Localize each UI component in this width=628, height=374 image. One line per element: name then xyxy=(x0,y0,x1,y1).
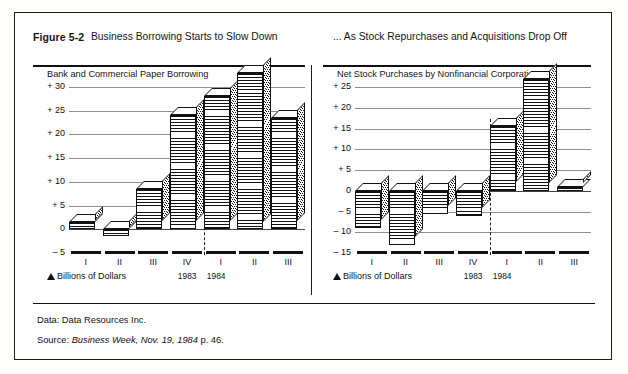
bar-front-face xyxy=(204,96,230,229)
year-label-1983: 1983 xyxy=(464,271,483,281)
y-axis-tick-label: – 5 xyxy=(319,206,351,216)
axis-units-label: Billions of Dollars xyxy=(343,271,412,281)
y-axis-tick-label: + 5 xyxy=(33,200,65,210)
bar xyxy=(523,71,557,191)
axis-units-label: Billions of Dollars xyxy=(57,271,126,281)
figure-page: Figure 5-2 Business Borrowing Starts to … xyxy=(0,0,628,374)
triangle-marker-icon xyxy=(47,273,55,280)
bar xyxy=(490,118,524,190)
bar xyxy=(170,107,204,229)
x-axis-tick-mark xyxy=(492,251,522,254)
bar-front-face xyxy=(237,73,263,230)
triangle-marker-icon xyxy=(333,273,341,280)
y-axis-tick-label: + 30 xyxy=(33,81,65,91)
bar xyxy=(136,181,170,229)
figure-frame: Figure 5-2 Business Borrowing Starts to … xyxy=(14,12,612,360)
x-axis-tick-mark xyxy=(273,251,303,254)
y-axis-tick-label: + 5 xyxy=(319,164,351,174)
y-axis-tick-label: + 25 xyxy=(319,81,351,91)
bar xyxy=(355,183,389,228)
bar-front-face xyxy=(136,189,162,229)
source-publication: Business Week, Nov. 19, 1984 xyxy=(72,335,198,345)
y-axis-tick-label: – 10 xyxy=(319,226,351,236)
bar-front-face xyxy=(422,191,448,214)
footer-data-note: Data: Data Resources Inc. xyxy=(37,315,146,325)
year-divider xyxy=(490,119,491,255)
y-axis-tick-label: + 25 xyxy=(33,105,65,115)
bar-side-face xyxy=(95,206,103,221)
x-axis-category-label: III xyxy=(554,257,594,267)
bar-side-face xyxy=(297,102,305,221)
plot-area-right: + 25+ 20+ 15+ 10+ 50– 5– 10– 15IIIIIIIVI… xyxy=(315,65,598,295)
figure-title-left: Business Borrowing Starts to Slow Down xyxy=(91,31,278,42)
x-axis-category-label: III xyxy=(268,257,308,267)
bar-front-face xyxy=(103,229,129,236)
bar-front-face xyxy=(69,222,95,229)
x-axis-tick-mark xyxy=(357,251,387,254)
bar xyxy=(456,183,490,216)
year-divider xyxy=(204,119,205,255)
year-label-1984: 1984 xyxy=(207,271,226,281)
bar-front-face xyxy=(355,191,381,228)
x-axis-tick-mark xyxy=(525,251,555,254)
x-axis-tick-mark xyxy=(105,251,135,254)
x-axis-tick-mark xyxy=(559,251,589,254)
y-axis-tick-label: 0 xyxy=(33,223,65,233)
y-axis-tick-label: + 15 xyxy=(319,123,351,133)
bar-front-face xyxy=(557,187,583,191)
figure-number: Figure 5-2 xyxy=(33,31,84,43)
x-axis-tick-mark xyxy=(71,251,101,254)
bar xyxy=(271,110,305,229)
x-axis-tick-mark xyxy=(138,251,168,254)
x-axis-tick-mark xyxy=(172,251,202,254)
axis-units-caption: Billions of Dollars xyxy=(47,271,126,281)
bar xyxy=(237,65,271,230)
footer-source-note: Source: Business Week, Nov. 19, 1984 p. … xyxy=(37,335,224,345)
plot-area-left: + 30+ 25+ 20+ 15+ 10+ 50– 5IIIIIIIVIIIII… xyxy=(29,65,312,295)
bar xyxy=(389,183,423,245)
bar-front-face xyxy=(456,191,482,216)
figure-header: Figure 5-2 Business Borrowing Starts to … xyxy=(15,31,611,47)
y-axis-tick-label: + 10 xyxy=(319,143,351,153)
bar-front-face xyxy=(170,115,196,229)
y-axis-tick-label: + 10 xyxy=(33,176,65,186)
bar-front-face xyxy=(271,118,297,229)
y-axis-tick-label: 0 xyxy=(319,185,351,195)
footer-divider xyxy=(33,303,595,304)
bar-front-face xyxy=(389,191,415,245)
bar xyxy=(69,214,103,229)
chart-panel-right: Net Stock Purchases by Nonfinancial Corp… xyxy=(315,65,598,295)
y-axis-tick-label: – 5 xyxy=(33,247,65,257)
x-axis-tick-mark xyxy=(239,251,269,254)
bar xyxy=(422,183,456,214)
bar xyxy=(204,88,238,229)
y-axis-tick-label: + 20 xyxy=(33,128,65,138)
x-axis-tick-mark xyxy=(391,251,421,254)
axis-units-caption: Billions of Dollars xyxy=(333,271,412,281)
bar xyxy=(103,221,137,236)
year-label-1984: 1984 xyxy=(493,271,512,281)
x-axis-tick-mark xyxy=(206,251,236,254)
year-label-1983: 1983 xyxy=(178,271,197,281)
chart-panel-left: Bank and Commercial Paper Borrowing + 30… xyxy=(29,65,312,295)
x-axis-tick-mark xyxy=(458,251,488,254)
y-axis-tick-label: – 15 xyxy=(319,247,351,257)
y-axis-tick-label: + 20 xyxy=(319,102,351,112)
bar xyxy=(557,179,591,191)
source-suffix: p. 46. xyxy=(198,335,224,345)
bar-side-face xyxy=(549,63,557,183)
source-prefix: Source: xyxy=(37,335,72,345)
bar-front-face xyxy=(523,79,549,191)
bar-front-face xyxy=(490,126,516,190)
y-axis-tick-label: + 15 xyxy=(33,152,65,162)
figure-title-right: ... As Stock Repurchases and Acquisition… xyxy=(333,31,567,42)
x-axis-tick-mark xyxy=(424,251,454,254)
